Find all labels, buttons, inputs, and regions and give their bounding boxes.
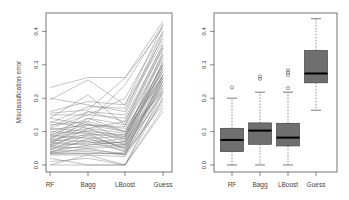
right-y-axis: 0.00.10.20.30.4 [201,27,214,170]
outlier-point [230,86,233,89]
boxplot-panel: 0.00.10.20.30.4 RFBaggLBoostGuess [201,13,337,189]
x-tick-label: Bagg [252,181,268,189]
iqr-box [277,123,300,146]
boxplot-guess [305,19,328,111]
y-tick-label: 0.0 [33,160,39,169]
dataset-lines [50,21,163,165]
parallel-coordinates-panel: 0.00.10.20.30.4 RFBaggLBoostGuess Miscla… [15,13,173,189]
x-tick-label: RF [46,181,55,188]
x-tick-label: LBoost [115,181,135,188]
boxplot-bagg [249,75,272,165]
boxplots [221,19,328,165]
y-tick-label: 0.2 [201,93,207,102]
y-tick-label: 0.1 [201,127,207,136]
x-tick-label: Guess [154,181,174,188]
left-x-axis: RFBaggLBoostGuess [46,172,173,189]
right-x-axis: RFBaggLBoostGuess [228,172,326,189]
y-axis-label: Misclassification error [15,60,22,123]
figure: 0.00.10.20.30.4 RFBaggLBoostGuess Miscla… [0,0,349,200]
y-tick-label: 0.0 [201,160,207,169]
x-tick-label: RF [228,181,237,188]
y-tick-label: 0.4 [201,27,207,36]
y-tick-label: 0.3 [33,60,39,69]
outlier-point [258,75,261,78]
y-tick-label: 0.2 [33,93,39,102]
outlier-point [286,69,289,72]
left-y-axis: 0.00.10.20.30.4 [33,27,46,170]
dataset-line [50,25,163,105]
x-tick-label: Bagg [80,181,96,189]
boxplot-lboost [277,69,300,165]
iqr-box [305,50,328,82]
x-tick-label: LBoost [278,181,298,188]
y-tick-label: 0.4 [33,27,39,36]
x-tick-label: Guess [307,181,327,188]
outlier-point [286,87,289,90]
y-tick-label: 0.3 [201,60,207,69]
iqr-box [249,123,272,144]
y-tick-label: 0.1 [33,127,39,136]
boxplot-rf [221,86,244,165]
